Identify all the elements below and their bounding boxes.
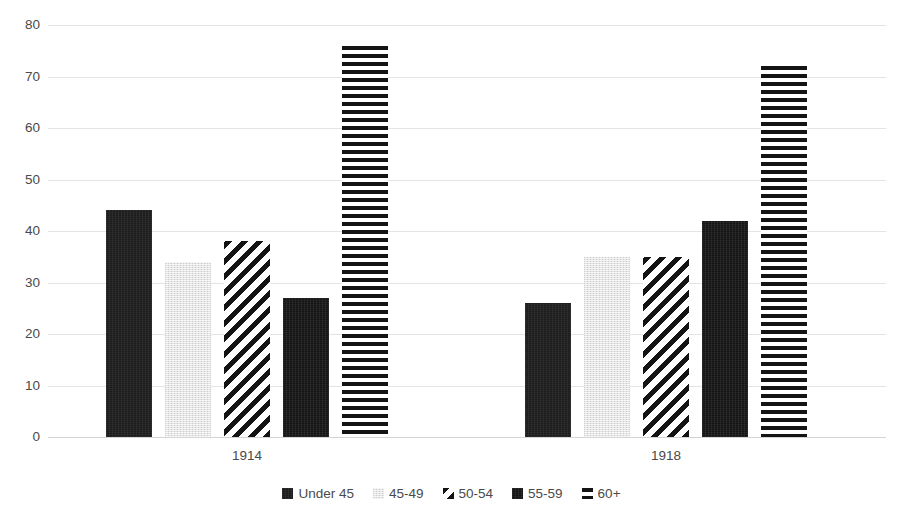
x-tick-label-1914: 1914: [232, 448, 262, 463]
legend-label: 55-59: [528, 487, 563, 501]
legend-item-under-45[interactable]: Under 45: [282, 487, 354, 501]
y-tick-label: 10: [6, 379, 40, 393]
y-tick-label: 70: [6, 70, 40, 84]
legend-label: 50-54: [459, 487, 494, 501]
bar-1914-60: [342, 46, 388, 437]
legend-swatch-icon: [373, 488, 384, 499]
legend-item-60[interactable]: 60+: [582, 487, 621, 501]
y-tick-label: 80: [6, 18, 40, 32]
legend-swatch-icon: [582, 488, 593, 499]
legend-item-55-59[interactable]: 55-59: [512, 487, 563, 501]
y-tick-label: 30: [6, 276, 40, 290]
legend-item-45-49[interactable]: 45-49: [373, 487, 424, 501]
y-tick-label: 50: [6, 173, 40, 187]
y-tick-label: 0: [6, 430, 40, 444]
bar-1914-50-54: [224, 241, 270, 437]
bar-1914-under-45: [106, 210, 152, 437]
legend-swatch-icon: [443, 488, 454, 499]
legend-item-50-54[interactable]: 50-54: [443, 487, 494, 501]
y-axis: 01020304050607080: [0, 25, 40, 437]
legend-label: 60+: [598, 487, 621, 501]
bar-chart: 01020304050607080 19141918 Under 4545-49…: [0, 0, 903, 532]
legend-swatch-icon: [512, 488, 523, 499]
x-axis: 19141918: [48, 448, 886, 470]
bar-1918-under-45: [525, 303, 571, 437]
y-tick-label: 20: [6, 327, 40, 341]
y-tick-label: 60: [6, 121, 40, 135]
x-tick-label-1918: 1918: [651, 448, 681, 463]
legend-swatch-icon: [282, 488, 293, 499]
bar-1918-60: [761, 66, 807, 437]
bar-1918-50-54: [643, 257, 689, 437]
bar-1918-55-59: [702, 221, 748, 437]
legend-label: 45-49: [389, 487, 424, 501]
chart-legend: Under 4545-4950-5455-5960+: [0, 487, 903, 501]
bar-1918-45-49: [584, 257, 630, 437]
gridline: [48, 437, 886, 438]
bar-1914-55-59: [283, 298, 329, 437]
legend-label: Under 45: [298, 487, 354, 501]
bar-1914-45-49: [165, 262, 211, 437]
bars-layer: [48, 25, 886, 437]
y-tick-label: 40: [6, 224, 40, 238]
